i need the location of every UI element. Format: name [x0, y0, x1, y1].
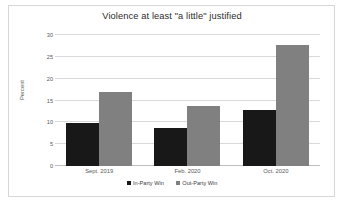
bar-in-party-win	[154, 128, 187, 166]
legend-label: Out-Party Win	[182, 180, 217, 186]
y-tick-label: 15	[47, 98, 53, 104]
bar-out-party-win	[276, 45, 309, 166]
x-tick-label: Oct. 2020	[263, 168, 288, 174]
x-tick-label: Feb. 2020	[174, 168, 200, 174]
y-tick-label: 10	[47, 119, 53, 125]
bar-in-party-win	[66, 123, 99, 166]
y-tick-label: 0	[50, 163, 53, 169]
x-tick-label: Sept. 2019	[85, 168, 113, 174]
legend-swatch-icon	[127, 181, 131, 185]
chart-legend: In-Party WinOut-Party Win	[0, 180, 344, 186]
plot-area	[55, 35, 320, 166]
legend-swatch-icon	[176, 181, 180, 185]
legend-entry[interactable]: In-Party Win	[127, 180, 164, 186]
y-tick-label: 25	[47, 54, 53, 60]
bar-in-party-win	[243, 110, 276, 166]
bar-out-party-win	[99, 92, 132, 166]
y-axis-tick-labels: 051015202530	[37, 35, 53, 166]
y-axis-title: Percent	[19, 80, 25, 100]
bar-group	[143, 35, 231, 166]
y-tick-label: 5	[50, 141, 53, 147]
x-axis-tick-labels: Sept. 2019Feb. 2020Oct. 2020	[55, 168, 320, 180]
legend-label: In-Party Win	[133, 180, 164, 186]
chart-figure: Violence at least "a little" justified P…	[0, 0, 344, 205]
bar-group	[55, 35, 143, 166]
bar-out-party-win	[187, 106, 220, 166]
y-tick-label: 20	[47, 76, 53, 82]
legend-entry[interactable]: Out-Party Win	[176, 180, 218, 186]
bar-group	[232, 35, 320, 166]
y-tick-label: 30	[47, 32, 53, 38]
chart-title: Violence at least "a little" justified	[0, 11, 344, 21]
